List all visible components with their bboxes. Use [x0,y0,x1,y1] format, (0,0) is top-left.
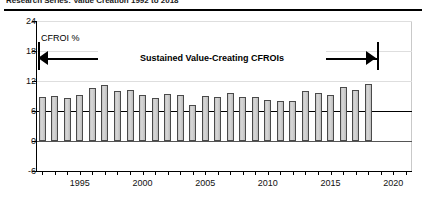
x-tick [168,171,169,175]
x-tick [255,171,256,175]
x-tick [406,171,407,175]
bar [327,95,334,141]
x-tick-label: 1995 [70,178,90,188]
bar [177,95,184,141]
x-tick-label: 2020 [383,178,403,188]
arrow-left-icon [38,51,48,65]
y-tick-label: -6 [10,167,36,176]
y-tick-label: 24 [10,17,36,26]
x-tick [67,171,68,175]
page-title: Research Series: Value Creation 1992 to … [6,0,306,5]
title-rule [4,9,422,11]
bar [64,98,71,141]
annotation-label: Sustained Value-Creating CFROIs [98,51,326,66]
bar [189,105,196,142]
y-tick-label: 6 [10,107,36,116]
bar [227,93,234,141]
bar [239,97,246,142]
x-tick [180,171,181,175]
sustained-band-annotation: Sustained Value-Creating CFROIs [36,48,381,70]
bar [127,90,134,141]
bar [289,101,296,142]
x-tick [130,171,131,175]
annotation-right-bracket [377,42,379,70]
x-tick [205,171,206,175]
x-tick [331,171,332,175]
bar [139,95,146,142]
x-tick [318,171,319,175]
x-tick [143,171,144,175]
x-tick [381,171,382,175]
x-tick [105,171,106,175]
x-tick [368,171,369,175]
bar [365,84,372,141]
chart-page: Research Series: Value Creation 1992 to … [0,0,426,206]
bar [264,100,271,142]
bar [214,97,221,141]
x-tick [343,171,344,175]
bar [114,91,121,142]
x-tick-label: 2005 [195,178,215,188]
x-tick [230,171,231,175]
x-tick [155,171,156,175]
bar [51,96,58,142]
x-tick [80,171,81,175]
bar [277,101,284,141]
x-tick [356,171,357,175]
bar [39,97,46,142]
page-title-text: Research Series: Value Creation 1992 to … [6,0,306,5]
y-axis-label: CFROI % [41,33,80,43]
bar [340,87,347,141]
bar [164,94,171,141]
x-tick [193,171,194,175]
bar-series [36,21,412,141]
x-tick [55,171,56,175]
x-tick-label: 2000 [133,178,153,188]
bar [76,95,83,142]
y-tick-label: 18 [10,47,36,56]
arrow-right-icon [366,51,376,65]
x-tick [218,171,219,175]
x-tick [280,171,281,175]
x-tick [42,171,43,175]
x-tick-label: 2015 [321,178,341,188]
x-tick [117,171,118,175]
y-tick-label: 12 [10,77,36,86]
bar [89,88,96,141]
bar [315,93,322,142]
bar [101,85,108,141]
bar [302,91,309,142]
x-tick-label: 2010 [258,178,278,188]
x-tick [92,171,93,175]
x-tick [293,171,294,175]
bar [352,90,359,142]
y-tick-label: 0 [10,137,36,146]
x-tick [268,171,269,175]
x-tick [243,171,244,175]
zero-line [36,141,412,142]
bar [202,96,209,141]
y-axis: 24181260-6 [0,0,36,206]
x-tick [305,171,306,175]
x-tick [393,171,394,175]
bar [152,98,159,141]
bar [252,97,259,142]
